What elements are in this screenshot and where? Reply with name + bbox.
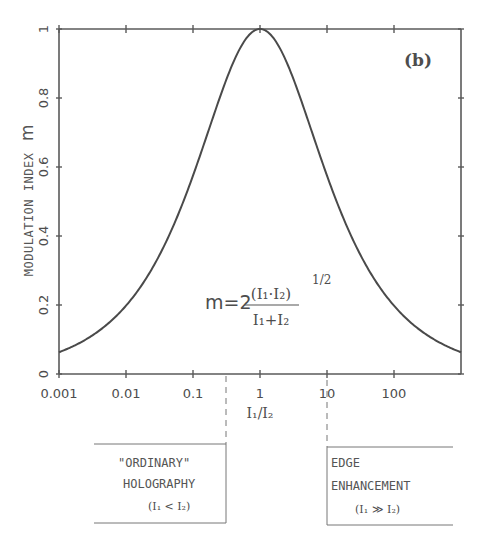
formula-numerator: (I₁·I₂) bbox=[251, 285, 291, 303]
box-left-line3: (I₁ < I₂) bbox=[148, 500, 190, 513]
modulation-curve bbox=[59, 29, 461, 352]
formula-exponent: 1/2 bbox=[312, 273, 331, 287]
x-axis-label: I₁/I₂ bbox=[246, 405, 273, 421]
formula: m=2 (I₁·I₂) 1/2 I₁+I₂ bbox=[205, 273, 331, 329]
formula-denominator: I₁+I₂ bbox=[253, 311, 289, 329]
x-tick-labels: 0.001 0.01 0.1 1 10 100 bbox=[40, 386, 406, 401]
y-axis-label-text: MODULATION INDEX bbox=[22, 152, 36, 276]
y-tick-label: 0.4 bbox=[36, 226, 51, 247]
y-tick-label: 0.2 bbox=[36, 295, 51, 316]
x-tick-label: 100 bbox=[382, 386, 407, 401]
box-left-line1: "ORDINARY" bbox=[118, 456, 190, 470]
y-tick-label: 1 bbox=[36, 25, 51, 33]
y-tick-label: 0.6 bbox=[36, 157, 51, 178]
x-tick-label: 0.01 bbox=[112, 386, 141, 401]
y-axis-variable: m bbox=[17, 124, 37, 141]
box-left-line2: HOLOGRAPHY bbox=[123, 477, 196, 491]
ordinary-holography-box: "ORDINARY" HOLOGRAPHY (I₁ < I₂) bbox=[94, 444, 226, 523]
formula-lhs: m=2 bbox=[205, 291, 252, 313]
y-tick-labels: 0 0.2 0.4 0.6 0.8 1 bbox=[36, 25, 51, 378]
box-right-line1: EDGE bbox=[331, 456, 360, 470]
x-tick-label: 0.1 bbox=[183, 386, 204, 401]
y-tick-label: 0.8 bbox=[36, 88, 51, 109]
y-axis-label: MODULATION INDEX m bbox=[17, 124, 37, 276]
box-right-line3: (I₁ ≫ I₂) bbox=[355, 503, 400, 516]
y-tick-label: 0 bbox=[36, 370, 51, 378]
edge-enhancement-box: EDGE ENHANCEMENT (I₁ ≫ I₂) bbox=[327, 447, 453, 525]
x-tick-label: 1 bbox=[256, 386, 264, 401]
box-right-line2: ENHANCEMENT bbox=[331, 479, 410, 493]
chart-canvas: 0.001 0.01 0.1 1 10 100 0 0.2 0.4 0.6 0.… bbox=[0, 0, 480, 539]
panel-label: (b) bbox=[404, 50, 432, 70]
x-tick-label: 0.001 bbox=[40, 386, 77, 401]
y-axis-title: MODULATION INDEX m bbox=[17, 124, 37, 276]
